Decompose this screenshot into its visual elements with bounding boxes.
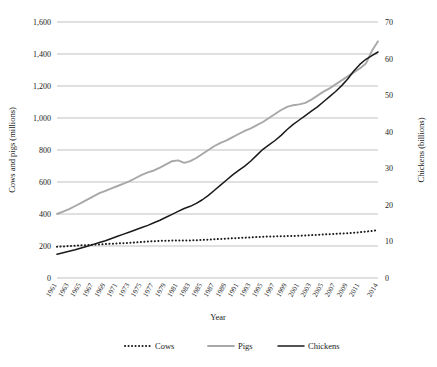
x-axis-title: Year (210, 312, 226, 322)
secondary-y-axis-tick-label: 10 (385, 237, 393, 246)
x-axis-tick-label: 1993 (238, 282, 252, 299)
legend-label-pigs: Pigs (238, 341, 253, 351)
legend-label-cows: Cows (155, 341, 174, 351)
x-axis-tick-label: 1973 (117, 282, 131, 299)
x-axis-tick-label: 2009 (335, 282, 349, 299)
x-axis-tick-label: 1961 (45, 282, 59, 299)
secondary-y-axis-tick-label: 30 (385, 164, 393, 173)
chart-legend: CowsPigsChickens (125, 341, 340, 351)
y-axis-title: Cows and pigs (millions) (7, 107, 17, 193)
x-axis-tick-label: 2001 (287, 282, 301, 299)
data-series-group (57, 41, 378, 254)
x-axis-tick-label: 1983 (178, 282, 192, 299)
y-axis-tick-label: 200 (39, 242, 51, 251)
series-line-chickens (57, 52, 378, 254)
x-axis-tick-label: 1977 (142, 282, 156, 299)
y-axis-tick-label: 1,000 (33, 114, 51, 123)
secondary-y-axis-tick-label: 70 (385, 18, 393, 27)
y-axis-tick-label: 0 (47, 274, 51, 283)
x-axis-tick-label: 1981 (166, 282, 180, 299)
x-axis-tick-label: 1985 (190, 282, 204, 299)
x-axis-tick-label: 1989 (214, 282, 228, 299)
legend-label-chickens: Chickens (308, 341, 340, 351)
x-axis-tick-label: 1967 (81, 282, 95, 299)
chart-container: 02004006008001,0001,2001,4001,600 010203… (0, 0, 437, 367)
secondary-y-axis-tick-label: 0 (385, 274, 389, 283)
secondary-y-axis-tick-label: 20 (385, 201, 393, 210)
x-axis-tick-label: 1975 (129, 282, 143, 299)
x-axis-tick-label: 1999 (275, 282, 289, 299)
x-axis-tick-label: 1965 (69, 282, 83, 299)
secondary-y-axis-tick-label: 50 (385, 91, 393, 100)
x-axis-tick-label: 1991 (226, 282, 240, 299)
y-axis-tick-label: 400 (39, 210, 51, 219)
x-axis-tick-label: 1979 (154, 282, 168, 299)
secondary-y-axis-tick-labels: 010203040506070 (385, 18, 393, 283)
x-axis-tick-label: 2014 (366, 282, 380, 299)
x-axis-tick-label: 1995 (251, 282, 265, 299)
x-axis-tick-label: 2003 (299, 282, 313, 299)
y-axis-tick-label: 1,600 (33, 18, 51, 27)
line-chart: 02004006008001,0001,2001,4001,600 010203… (0, 0, 437, 367)
secondary-y-axis-tick-label: 60 (385, 55, 393, 64)
y-axis-tick-label: 800 (39, 146, 51, 155)
x-axis-tick-label: 2011 (348, 282, 362, 299)
y-axis-tick-label: 1,400 (33, 50, 51, 59)
x-axis-tick-label: 2007 (323, 282, 337, 299)
x-axis-tick-label: 1987 (202, 282, 216, 299)
y-axis-tick-label: 600 (39, 178, 51, 187)
secondary-y-axis-tick-label: 40 (385, 128, 393, 137)
x-axis-tick-labels: 1961196319651967196919711973197519771979… (45, 282, 380, 299)
x-axis-tick-label: 1969 (93, 282, 107, 299)
y-axis-tick-label: 1,200 (33, 82, 51, 91)
series-line-cows (57, 230, 378, 247)
x-axis-tick-label: 1997 (263, 282, 277, 299)
x-axis-tick-label: 2005 (311, 282, 325, 299)
x-axis-tick-label: 1971 (105, 282, 119, 299)
y-axis-tick-labels: 02004006008001,0001,2001,4001,600 (33, 18, 51, 283)
x-axis-tick-label: 1963 (57, 282, 71, 299)
secondary-y-axis-title: Chickens (billions) (416, 117, 426, 182)
